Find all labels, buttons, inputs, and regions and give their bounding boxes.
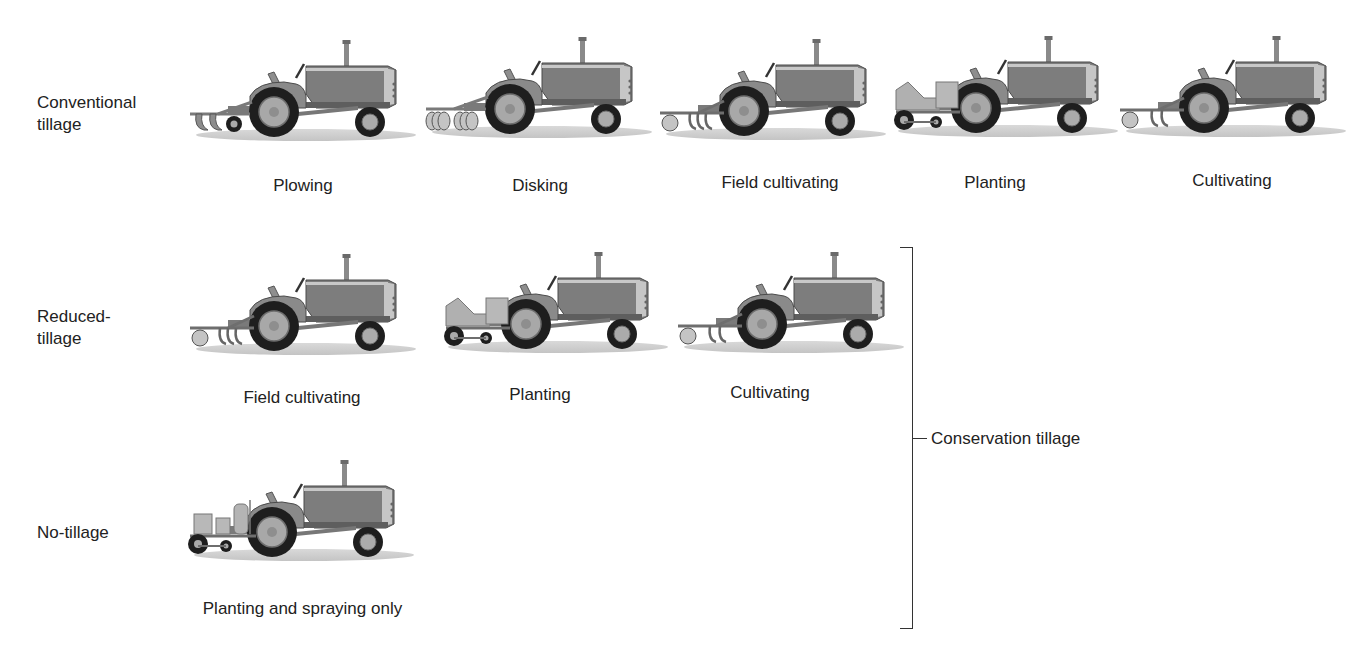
- row-label-conventional-tillage: Conventional tillage: [37, 92, 136, 136]
- row-label-line: tillage: [37, 114, 136, 136]
- row-label-line: tillage: [37, 328, 111, 350]
- caption-planting-and-spraying-only: Planting and spraying only: [170, 599, 435, 619]
- tractor-plowing-icon: [188, 36, 418, 146]
- row-label-no-tillage: No-tillage: [37, 522, 109, 544]
- tractor-planting-icon: [890, 32, 1120, 142]
- caption-cultivating: Cultivating: [1152, 171, 1312, 191]
- row-label-reduced-tillage: Reduced- tillage: [37, 306, 111, 350]
- row-label-line: No-tillage: [37, 522, 109, 544]
- tractor-reduced-planting-icon: [440, 248, 670, 358]
- caption-reduced-field-cultivating: Field cultivating: [212, 388, 392, 408]
- tractor-field-cultivating-icon: [658, 35, 888, 145]
- tractor-reduced-cultivating-icon: [676, 248, 906, 358]
- row-label-line: Conventional: [37, 92, 136, 114]
- conservation-tillage-bracket: [900, 247, 913, 629]
- caption-reduced-cultivating: Cultivating: [690, 383, 850, 403]
- tractor-cultivating-icon: [1118, 32, 1348, 142]
- caption-disking: Disking: [470, 176, 610, 196]
- bracket-tick: [913, 438, 927, 439]
- tractor-disking-icon: [424, 33, 654, 143]
- caption-plowing: Plowing: [233, 176, 373, 196]
- caption-planting: Planting: [925, 173, 1065, 193]
- tractor-no-till-planting-spraying-icon: [186, 456, 416, 566]
- caption-reduced-planting: Planting: [470, 385, 610, 405]
- row-label-line: Reduced-: [37, 306, 111, 328]
- caption-field-cultivating: Field cultivating: [690, 173, 870, 193]
- tractor-reduced-field-cultivating-icon: [188, 250, 418, 360]
- conservation-tillage-label: Conservation tillage: [931, 429, 1080, 449]
